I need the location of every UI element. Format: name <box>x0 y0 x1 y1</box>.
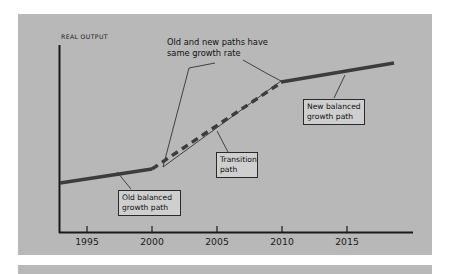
x-tick-label-2000: 2000 <box>140 236 164 247</box>
series-old-balanced-growth-path <box>60 169 152 183</box>
annotation-growth-rate-note: Old and new paths have same growth rate <box>167 37 268 59</box>
leader-growth-rate-left <box>163 63 215 167</box>
x-tick-marks <box>87 226 347 232</box>
leader-new-path <box>334 75 345 98</box>
x-tick-label-2005: 2005 <box>205 236 229 247</box>
x-tick-label-2015: 2015 <box>335 236 359 247</box>
x-tick-label-2010: 2010 <box>270 236 294 247</box>
leader-growth-rate-right <box>243 60 281 81</box>
callout-old-balanced-growth-path: Old balanced growth path <box>118 190 181 216</box>
series-new-balanced-growth-path <box>281 63 394 82</box>
figure-root: REAL OUTPUT 1995 2000 2005 2010 2015 Old… <box>0 0 453 274</box>
x-tick-label-1995: 1995 <box>75 236 99 247</box>
y-axis-title: REAL OUTPUT <box>61 33 108 40</box>
callout-transition-path: Transition path <box>216 152 258 178</box>
leader-transition-path <box>217 131 228 152</box>
callout-new-balanced-growth-path: New balanced growth path <box>303 99 365 125</box>
